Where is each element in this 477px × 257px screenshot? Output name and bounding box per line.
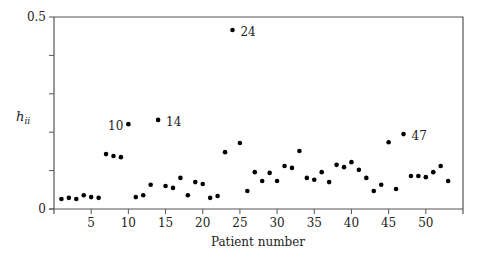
data-point xyxy=(223,150,228,155)
data-point xyxy=(104,152,109,157)
data-point xyxy=(238,141,243,146)
data-point xyxy=(171,186,176,191)
data-point xyxy=(74,197,79,202)
x-tick-label: 15 xyxy=(158,216,173,230)
data-point xyxy=(379,183,384,188)
data-point xyxy=(327,180,332,185)
data-point xyxy=(386,140,391,145)
x-tick-label: 40 xyxy=(344,216,359,230)
data-point xyxy=(89,195,94,200)
data-point xyxy=(334,163,339,168)
x-tick-label: 50 xyxy=(418,216,433,230)
data-point xyxy=(178,176,183,181)
data-point xyxy=(364,176,369,181)
data-point xyxy=(282,164,287,169)
data-point xyxy=(126,122,131,127)
point-annotations: 10142447 xyxy=(108,25,427,143)
data-point xyxy=(193,180,198,185)
data-point xyxy=(446,179,451,184)
x-tick-label: 10 xyxy=(121,216,136,230)
data-point xyxy=(134,195,139,200)
y-axis-ticks: 00.5 xyxy=(27,10,54,216)
x-axis-label: Patient number xyxy=(211,235,305,249)
data-point xyxy=(252,170,257,175)
data-point xyxy=(371,189,376,194)
data-point xyxy=(59,197,64,202)
x-tick-label: 20 xyxy=(195,216,210,230)
data-point xyxy=(424,175,429,180)
x-tick-label: 45 xyxy=(381,216,396,230)
data-point xyxy=(431,170,436,175)
data-point xyxy=(409,174,414,179)
plot-frame xyxy=(49,17,463,214)
point-annotation: 10 xyxy=(108,119,123,133)
data-point xyxy=(141,193,146,198)
data-point xyxy=(148,183,153,188)
point-annotation: 24 xyxy=(240,25,256,39)
x-axis-ticks: 5101520253035404550 xyxy=(87,209,433,230)
point-annotation: 14 xyxy=(166,115,182,129)
data-point xyxy=(357,168,362,173)
data-point xyxy=(208,196,213,201)
y-axis-label: hii xyxy=(16,109,30,126)
data-points xyxy=(59,28,450,202)
data-point xyxy=(215,194,220,199)
x-tick-label: 5 xyxy=(87,216,95,230)
data-point xyxy=(67,196,72,201)
x-tick-label: 35 xyxy=(307,216,322,230)
x-tick-label: 25 xyxy=(232,216,247,230)
data-point xyxy=(245,189,250,194)
data-point xyxy=(275,179,280,184)
y-tick-label: 0.5 xyxy=(27,10,46,24)
point-annotation: 47 xyxy=(412,129,427,143)
data-point xyxy=(416,174,421,179)
data-point xyxy=(267,171,272,176)
data-point xyxy=(163,184,168,189)
data-point xyxy=(200,182,205,187)
leverage-scatter-chart: 00.5 5101520253035404550 10142447 hii Pa… xyxy=(0,0,477,257)
data-point xyxy=(186,193,191,198)
data-point xyxy=(319,170,324,175)
data-point xyxy=(81,193,86,198)
data-point xyxy=(111,154,116,159)
data-point xyxy=(96,196,101,201)
data-point xyxy=(312,178,317,183)
data-point xyxy=(290,166,295,171)
data-point xyxy=(119,155,124,160)
data-point xyxy=(438,164,443,169)
data-point xyxy=(156,118,161,123)
axes-box xyxy=(49,17,463,214)
data-point xyxy=(297,149,302,154)
x-tick-label: 30 xyxy=(269,216,284,230)
data-point xyxy=(401,132,406,137)
data-point xyxy=(260,179,265,184)
data-point xyxy=(349,160,354,165)
data-point xyxy=(305,176,310,181)
y-tick-label: 0 xyxy=(38,202,46,216)
data-point xyxy=(230,28,235,33)
data-point xyxy=(342,165,347,170)
data-point xyxy=(394,187,399,192)
